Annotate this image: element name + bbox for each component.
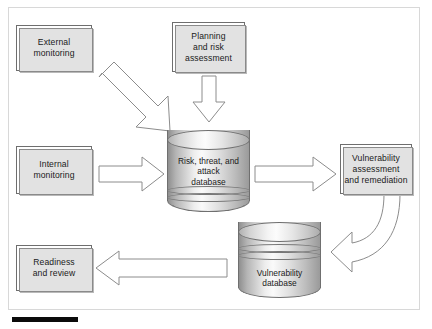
node-readiness-review-label: Readinessand review: [31, 257, 78, 279]
node-vulnerability-assessment-label: Vulnerabilityassessmentand remediation: [342, 153, 409, 186]
arrow-planning-to-database: [191, 75, 227, 125]
node-internal-monitoring-line2: monitoring: [33, 170, 74, 180]
node-vuln-database-line1: Vulnerability: [257, 268, 302, 278]
node-internal-monitoring-label: Internalmonitoring: [31, 159, 76, 181]
node-external-monitoring-label: Externalmonitoring: [31, 37, 76, 59]
node-risk-database-line3: database: [191, 177, 225, 187]
node-readiness-line2: and review: [33, 268, 76, 278]
node-vuln-assessment-line1: Vulnerability: [352, 153, 400, 163]
bottom-left-black-rule: [12, 317, 78, 322]
node-vuln-database-line2: database: [262, 278, 296, 288]
diagram-canvas: Externalmonitoring Planningand riskasses…: [0, 0, 432, 329]
arrow-internal-to-database: [98, 155, 166, 193]
node-vulnerability-assessment-remediation[interactable]: Vulnerabilityassessmentand remediation: [340, 144, 412, 194]
node-readiness-line1: Readiness: [33, 257, 75, 267]
node-planning-line3: assessment: [185, 53, 232, 63]
node-external-monitoring[interactable]: Externalmonitoring: [16, 25, 92, 71]
node-risk-threat-attack-database[interactable]: Risk, threat, andattackdatabase: [167, 130, 250, 212]
arrow-assessment-to-vulndb: [330, 192, 404, 276]
node-internal-monitoring-line1: Internal: [39, 159, 68, 169]
node-planning-line1: Planning: [191, 31, 225, 41]
node-vuln-assessment-line3: and remediation: [344, 175, 407, 185]
node-planning-line2: and risk: [193, 42, 224, 52]
node-planning-risk-assessment[interactable]: Planningand riskassessment: [172, 22, 245, 72]
node-risk-database-line2: attack: [197, 166, 219, 176]
node-readiness-review[interactable]: Readinessand review: [16, 245, 92, 291]
arrow-vulndb-to-readiness: [95, 248, 229, 288]
node-vulnerability-database-label: Vulnerabilitydatabase: [238, 268, 321, 289]
node-risk-database-line1: Risk, threat, and: [178, 156, 239, 166]
cylinder-top-ellipse: [167, 130, 250, 150]
node-internal-monitoring[interactable]: Internalmonitoring: [16, 146, 92, 194]
node-vuln-assessment-line2: assessment: [353, 164, 400, 174]
node-vulnerability-database[interactable]: Vulnerabilitydatabase: [238, 222, 321, 298]
arrow-database-to-assessment: [254, 155, 338, 193]
node-risk-database-label: Risk, threat, andattackdatabase: [167, 156, 250, 187]
node-external-monitoring-line2: monitoring: [33, 48, 74, 58]
cylinder-top-ellipse: [238, 222, 321, 242]
node-planning-risk-assessment-label: Planningand riskassessment: [183, 31, 234, 64]
node-external-monitoring-line1: External: [38, 37, 70, 47]
